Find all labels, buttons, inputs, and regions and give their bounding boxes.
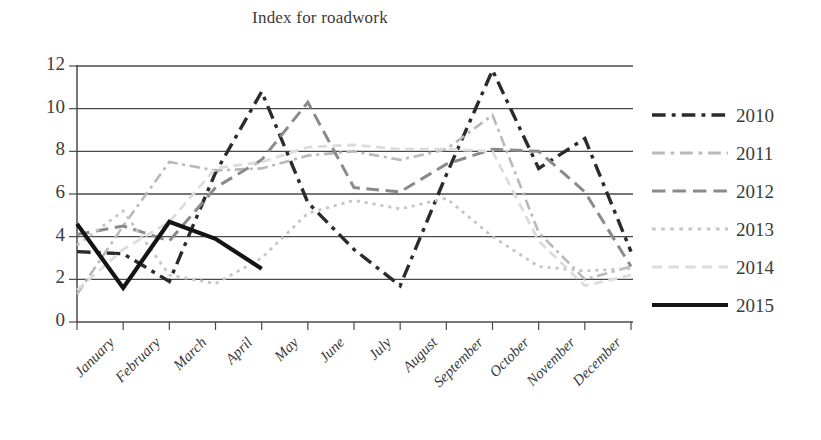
legend-swatch-icon-2014 [652,261,728,273]
legend-item-2013[interactable]: 2013 [652,210,817,248]
legend-item-2014[interactable]: 2014 [652,248,817,286]
y-axis-tick-label: 8 [31,138,65,160]
legend-swatch-icon-2015 [652,299,728,311]
y-axis-tick-label: 10 [31,96,65,118]
legend-label: 2012 [736,182,774,201]
y-axis-tick-label: 12 [31,53,65,75]
y-axis-tick-label: 6 [31,181,65,203]
legend-item-2015[interactable]: 2015 [652,286,817,324]
y-axis-tick-label: 0 [31,309,65,331]
y-tick-marks [69,66,77,322]
gridlines [77,66,633,279]
chart-legend: 201020112012201320142015 [652,96,817,324]
y-axis-tick-label: 2 [31,266,65,288]
legend-swatch-icon-2010 [652,109,728,121]
data-series-group [77,70,631,294]
legend-item-2011[interactable]: 2011 [652,134,817,172]
legend-swatch-icon-2012 [652,185,728,197]
legend-label: 2010 [736,106,774,125]
legend-label: 2011 [736,144,773,163]
legend-swatch-icon-2011 [652,147,728,159]
legend-swatch-icon-2013 [652,223,728,235]
legend-label: 2014 [736,258,774,277]
legend-item-2010[interactable]: 2010 [652,96,817,134]
legend-label: 2015 [736,296,774,315]
legend-label: 2013 [736,220,774,239]
chart-root: Index for roadwork 024681012 JanuaryFebr… [0,0,821,440]
y-axis-tick-label: 4 [31,224,65,246]
series-line-2010 [77,70,631,285]
legend-item-2012[interactable]: 2012 [652,172,817,210]
x-tick-marks [77,322,631,330]
